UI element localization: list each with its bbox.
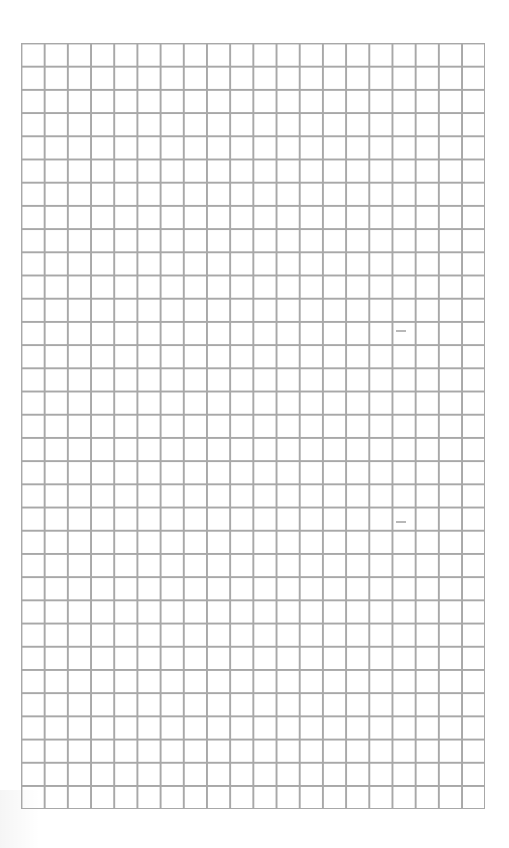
pencil-mark bbox=[396, 330, 406, 332]
graph-paper-grid bbox=[21, 43, 485, 809]
pencil-mark bbox=[396, 521, 406, 523]
